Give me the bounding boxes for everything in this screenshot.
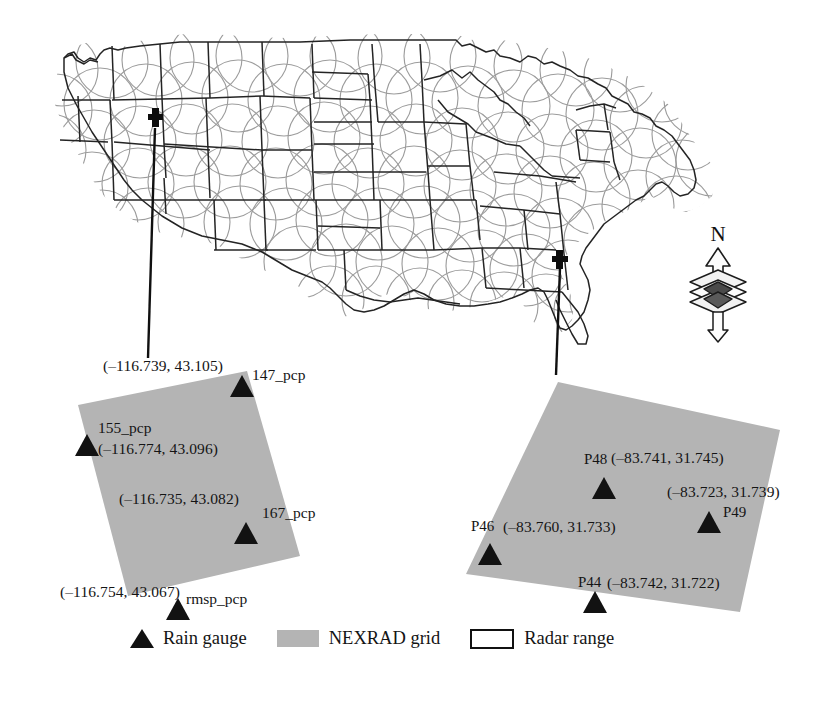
gauge-marker-P44	[583, 591, 607, 613]
legend-item-rain-gauge: Rain gauge	[130, 628, 247, 649]
triangle-icon	[130, 629, 154, 648]
gauge-coord-P49: (–83.723, 31.739)	[667, 484, 780, 500]
legend: Rain gauge NEXRAD grid Radar range	[130, 628, 614, 649]
gauge-label-P46: P46	[471, 519, 494, 534]
gauge-label-147_pcp: 147_pcp	[252, 367, 305, 383]
gauge-label-P44: P44	[578, 575, 601, 590]
gauge-coord-P46: (–83.760, 31.733)	[503, 519, 616, 535]
legend-item-radar-range: Radar range	[470, 628, 614, 649]
gauge-label-rmsp_pcp: rmsp_pcp	[186, 591, 247, 607]
gauge-coord-rmsp_pcp: (–116.754, 43.067)	[60, 584, 180, 600]
legend-label-rain-gauge: Rain gauge	[163, 628, 247, 649]
gauge-label-167_pcp: 167_pcp	[262, 505, 315, 521]
gray-swatch-icon	[277, 630, 319, 647]
legend-label-radar-range: Radar range	[524, 628, 614, 649]
compass-north-label: N	[680, 222, 756, 247]
legend-item-nexrad-grid: NEXRAD grid	[277, 628, 441, 649]
gauge-coord-P44: (–83.742, 31.722)	[607, 575, 720, 591]
figure-root: (–116.739, 43.105) 147_pcp 155_pcp (–116…	[0, 0, 835, 704]
gauge-label-P48: P48	[584, 452, 607, 467]
gauge-coord-167_pcp: (–116.735, 43.082)	[119, 491, 239, 507]
gauge-coord-147_pcp: (–116.739, 43.105)	[103, 358, 223, 374]
gauge-label-P49: P49	[723, 505, 746, 520]
gauge-coord-155_pcp: (–116.774, 43.096)	[98, 441, 218, 457]
north-arrow: N	[680, 222, 756, 344]
rect-outline-icon	[470, 629, 514, 649]
gauge-label-155_pcp: 155_pcp	[98, 420, 151, 436]
gauge-coord-P48: (–83.741, 31.745)	[611, 450, 724, 466]
legend-label-nexrad-grid: NEXRAD grid	[329, 628, 441, 649]
nexrad-grid-west	[78, 371, 300, 596]
